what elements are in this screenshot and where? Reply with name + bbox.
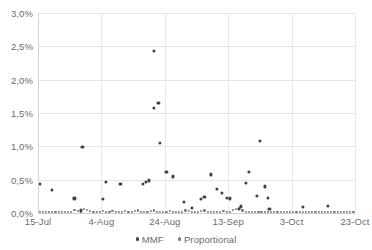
marker-mmf bbox=[119, 182, 122, 185]
gridline-horizontal bbox=[38, 146, 355, 147]
marker-mmf bbox=[158, 141, 161, 144]
plot-area bbox=[38, 13, 355, 213]
y-axis-tick-labels: 0,0%0,5%1,0%1,5%2,0%2,5%3,0% bbox=[0, 0, 33, 250]
x-axis-tick-labels: 15-Jul4-Aug24-Aug13-Sep3-Oct23-Oct bbox=[0, 216, 372, 230]
marker-mmf bbox=[81, 145, 84, 148]
gridline-horizontal bbox=[38, 13, 355, 14]
marker-proportional bbox=[203, 209, 205, 211]
marker-proportional bbox=[153, 209, 155, 211]
marker-mmf bbox=[301, 205, 304, 208]
marker-mmf bbox=[51, 188, 54, 191]
marker-mmf bbox=[203, 195, 206, 198]
marker-mmf bbox=[228, 197, 231, 200]
legend-marker-icon bbox=[178, 237, 181, 240]
marker-mmf bbox=[239, 205, 242, 208]
marker-mmf bbox=[157, 101, 160, 104]
x-axis-tick-label: 23-Oct bbox=[340, 216, 369, 227]
legend-item-label: Proportional bbox=[184, 234, 236, 245]
y-axis-tick-label: 2,0% bbox=[11, 74, 33, 85]
y-axis-tick-label: 1,0% bbox=[11, 141, 33, 152]
marker-proportional bbox=[73, 209, 75, 211]
marker-mmf bbox=[73, 197, 76, 200]
gridline-vertical bbox=[355, 13, 356, 213]
marker-mmf bbox=[190, 206, 193, 209]
x-axis-tick-label: 4-Aug bbox=[88, 216, 114, 227]
legend-item-label: MMF bbox=[142, 234, 164, 245]
marker-mmf bbox=[258, 139, 261, 142]
marker-mmf bbox=[326, 204, 329, 207]
x-axis-tick-label: 24-Aug bbox=[149, 216, 180, 227]
x-axis-tick-label: 13-Sep bbox=[213, 216, 244, 227]
marker-mmf bbox=[209, 173, 212, 176]
marker-proportional bbox=[200, 210, 202, 212]
marker-proportional bbox=[184, 209, 186, 211]
marker-mmf bbox=[255, 194, 258, 197]
marker-mmf bbox=[105, 180, 108, 183]
marker-proportional bbox=[124, 210, 126, 212]
marker-mmf bbox=[165, 170, 168, 173]
marker-proportional bbox=[134, 210, 136, 212]
y-axis-tick-label: 0,5% bbox=[11, 174, 33, 185]
gridline-horizontal bbox=[38, 80, 355, 81]
legend-marker-icon bbox=[136, 237, 139, 240]
y-axis-tick-label: 2,5% bbox=[11, 41, 33, 52]
marker-mmf bbox=[244, 181, 247, 184]
marker-mmf bbox=[263, 185, 266, 188]
gridline-horizontal bbox=[38, 46, 355, 47]
marker-mmf bbox=[152, 106, 155, 109]
marker-mmf bbox=[101, 197, 104, 200]
marker-mmf bbox=[216, 187, 219, 190]
marker-proportional bbox=[86, 209, 88, 211]
marker-proportional bbox=[222, 210, 224, 212]
marker-proportional bbox=[83, 208, 85, 210]
scatter-chart: 0,0%0,5%1,0%1,5%2,0%2,5%3,0% 15-Jul4-Aug… bbox=[0, 0, 372, 250]
marker-mmf bbox=[171, 175, 174, 178]
x-axis-tick-label: 15-Jul bbox=[25, 216, 51, 227]
legend-item[interactable]: MMF bbox=[136, 234, 164, 245]
marker-proportional bbox=[89, 210, 91, 212]
marker-proportional bbox=[111, 210, 113, 212]
gridline-horizontal bbox=[38, 113, 355, 114]
y-axis-tick-label: 1,5% bbox=[11, 108, 33, 119]
marker-proportional bbox=[137, 209, 139, 211]
marker-mmf bbox=[152, 49, 155, 52]
legend-item[interactable]: Proportional bbox=[178, 234, 237, 245]
marker-proportional bbox=[168, 210, 170, 212]
marker-proportional bbox=[149, 210, 151, 212]
marker-mmf bbox=[79, 209, 82, 212]
gridline-horizontal bbox=[38, 180, 355, 181]
marker-proportional bbox=[232, 209, 234, 211]
y-axis-tick-label: 3,0% bbox=[11, 8, 33, 19]
marker-proportional bbox=[187, 210, 189, 212]
chart-legend: MMFProportional bbox=[0, 231, 372, 247]
marker-mmf bbox=[266, 196, 269, 199]
marker-mmf bbox=[182, 200, 185, 203]
marker-mmf bbox=[220, 191, 223, 194]
x-axis-tick-label: 3-Oct bbox=[280, 216, 304, 227]
marker-mmf bbox=[247, 170, 250, 173]
gridline-vertical bbox=[228, 13, 229, 213]
marker-mmf bbox=[147, 179, 150, 182]
gridline-vertical bbox=[101, 13, 102, 213]
gridline-vertical bbox=[165, 13, 166, 213]
x-axis-line bbox=[38, 213, 355, 214]
marker-proportional bbox=[241, 209, 243, 211]
gridline-vertical bbox=[292, 13, 293, 213]
marker-proportional bbox=[102, 210, 104, 212]
y-axis-line bbox=[38, 13, 39, 214]
